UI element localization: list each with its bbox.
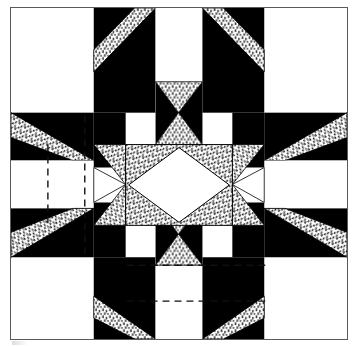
corner-unit-top-left (94, 113, 126, 145)
hourglass-top (156, 82, 203, 145)
corner-bottom-left (11, 257, 94, 339)
arm-left-center-white (11, 161, 94, 209)
corner-top-left (11, 8, 94, 113)
center-square-on-point (126, 145, 233, 226)
block-outline (10, 7, 348, 340)
arm-bottom-center-white (156, 257, 203, 339)
corner-unit-bottom-left (94, 225, 126, 257)
hourglass-right (232, 145, 264, 226)
hourglass-left (94, 145, 126, 226)
quilt-block-figure: Pieced star quilt block diagram (0, 0, 355, 346)
arm-right-center-white (264, 161, 347, 209)
figure-caption (0, 0, 1, 1)
corner-unit-top-right (232, 113, 264, 145)
block-drawing (11, 8, 347, 339)
figure-title: Pieced star quilt block diagram (0, 21, 1, 22)
corner-bottom-right (264, 257, 347, 339)
scan-artifact (12, 341, 28, 345)
corner-unit-bottom-right (232, 225, 264, 257)
corner-top-right (264, 8, 347, 113)
